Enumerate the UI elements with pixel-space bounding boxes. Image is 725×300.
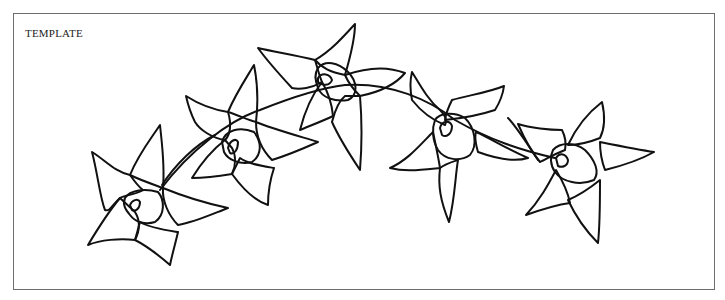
flower-1 xyxy=(88,125,228,265)
vine-stem xyxy=(160,85,555,190)
flower-5 xyxy=(508,102,654,243)
flower-4 xyxy=(390,72,528,222)
flower-2 xyxy=(186,65,318,205)
flower-3 xyxy=(258,24,405,170)
flower-vine-drawing xyxy=(0,0,725,300)
